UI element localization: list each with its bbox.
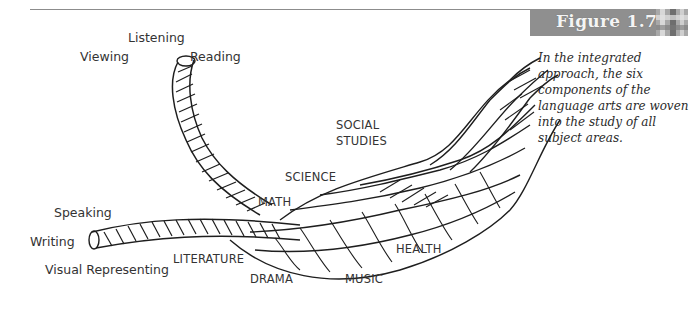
label-reading: Reading	[190, 49, 241, 64]
label-health: HEALTH	[396, 242, 441, 256]
label-viewing: Viewing	[80, 49, 129, 64]
label-speaking: Speaking	[54, 205, 112, 220]
label-writing: Writing	[30, 234, 75, 249]
label-science: SCIENCE	[285, 170, 336, 184]
label-literature: LITERATURE	[173, 252, 244, 266]
label-listening: Listening	[128, 30, 185, 45]
label-math: MATH	[258, 195, 291, 209]
label-social: SOCIAL	[336, 118, 379, 132]
label-music: MUSIC	[345, 272, 383, 286]
label-studies: STUDIES	[336, 134, 387, 148]
label-visual-representing: Visual Representing	[45, 262, 169, 277]
label-drama: DRAMA	[250, 272, 293, 286]
